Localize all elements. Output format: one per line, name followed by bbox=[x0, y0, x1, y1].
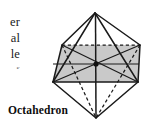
text-fragment-4: s bbox=[0, 62, 20, 69]
text-fragment-2: al bbox=[0, 30, 20, 46]
center-dot bbox=[93, 61, 98, 66]
figure-page: er al le s bbox=[0, 0, 151, 129]
text-fragment-1: er bbox=[0, 14, 20, 30]
edge-bottom-frontright bbox=[96, 82, 138, 118]
clipped-body-text: er al le s bbox=[0, 14, 20, 69]
text-fragment-3: le bbox=[0, 46, 20, 62]
figure-caption: Octahedron bbox=[8, 104, 68, 116]
edge-top-backright bbox=[95, 13, 140, 45]
